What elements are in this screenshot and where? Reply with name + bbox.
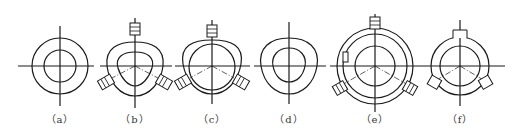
caption-b: （b） bbox=[115, 111, 155, 126]
panel-e-drawing bbox=[330, 14, 420, 112]
panel-f-drawing bbox=[420, 20, 505, 106]
caption-a: （a） bbox=[40, 111, 80, 126]
caption-e: （e） bbox=[355, 111, 395, 126]
caption-f: （f） bbox=[440, 111, 480, 126]
panel-c-drawing bbox=[174, 20, 250, 104]
caption-c: （c） bbox=[192, 111, 232, 126]
panel-a-drawing bbox=[18, 26, 94, 106]
panel-d-drawing bbox=[254, 22, 326, 104]
caption-d: （d） bbox=[269, 111, 309, 126]
panel-b-drawing bbox=[97, 18, 172, 108]
